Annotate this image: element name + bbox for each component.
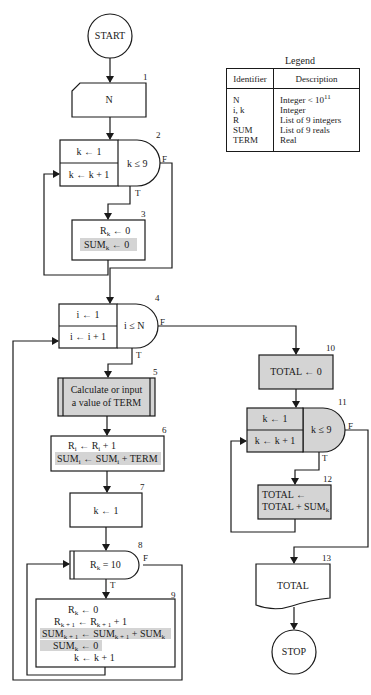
node-9-line-1: Rk ← 0 — [68, 605, 98, 615]
legend-title: Legend — [255, 55, 345, 66]
stop-label: STOP — [272, 647, 316, 657]
node-8-number: 8 — [138, 541, 143, 550]
node-7-number: 7 — [140, 483, 145, 492]
node-5-line-2: a value of TERM — [58, 398, 155, 408]
legend-header-identifier: Identifier — [227, 69, 274, 89]
node-8-test: Rk = 10 — [90, 560, 121, 570]
node-10-number: 10 — [326, 344, 335, 353]
node-13-label: TOTAL — [256, 581, 330, 591]
node-4-true-label: T — [136, 351, 142, 360]
node-9-line-5: k ← k + 1 — [74, 653, 115, 663]
node-2-test: k ≤ 9 — [127, 159, 148, 169]
node-4-test: i ≤ N — [124, 321, 145, 331]
node-11-number: 11 — [338, 398, 347, 407]
node-1-label: N — [72, 95, 146, 105]
node-3-line-2: SUMk ← 0 — [84, 240, 129, 250]
node-2-increment: k ← k + 1 — [60, 170, 118, 180]
node-11-true-label: T — [322, 454, 328, 463]
legend-header-description: Description — [274, 69, 360, 89]
node-12-line-1: TOTAL ← — [262, 490, 306, 500]
node-3-number: 3 — [141, 210, 146, 219]
node-11-false-label: F — [348, 422, 353, 431]
node-1-number: 1 — [143, 73, 148, 82]
node-6-line-2: SUMi ← SUMi + TERM — [57, 454, 158, 464]
node-5-number: 5 — [153, 368, 158, 377]
node-4-number: 4 — [155, 294, 160, 303]
node-11-test: k ≤ 9 — [311, 425, 332, 435]
node-4-increment: i ← i + 1 — [59, 332, 117, 342]
node-9-line-4: SUMk ← 0 — [53, 641, 98, 651]
node-4-false-label: F — [160, 318, 165, 327]
node-5-line-1: Calculate or input — [58, 385, 155, 395]
node-4-init: i ← 1 — [59, 310, 117, 320]
node-11-init: k ← 1 — [247, 414, 303, 424]
node-3-line-1: Rk ← 0 — [100, 226, 130, 236]
legend-identifiers: N i, k R SUM TERM — [227, 89, 274, 152]
node-12-line-2: TOTAL + SUMk — [262, 502, 329, 512]
legend-table: Identifier Description N i, k R SUM TERM… — [226, 68, 360, 152]
node-13-number: 13 — [322, 554, 331, 563]
start-label: START — [88, 31, 132, 41]
node-2-init: k ← 1 — [60, 147, 118, 157]
node-10-label: TOTAL ← 0 — [259, 367, 333, 377]
node-12-number: 12 — [323, 475, 332, 484]
node-6-line-1: Ri ← Ri + 1 — [68, 441, 116, 451]
node-2-false-label: F — [162, 155, 167, 164]
node-2-true-label: T — [135, 189, 141, 198]
node-8-true-label: T — [110, 581, 116, 590]
node-9-line-3: SUMk + 1 ← SUMk + 1 + SUMk — [42, 629, 165, 639]
node-8-false-label: F — [143, 554, 148, 563]
legend-descriptions: Integer < 1011 Integer List of 9 integer… — [274, 89, 360, 152]
node-6-number: 6 — [162, 426, 167, 435]
node-7-label: k ← 1 — [70, 506, 142, 516]
node-9-number: 9 — [171, 591, 176, 600]
node-9-line-2: Rk + 1 ← Rk + 1 + 1 — [54, 617, 127, 627]
node-2-number: 2 — [156, 131, 161, 140]
node-11-increment: k ← k + 1 — [247, 436, 303, 446]
